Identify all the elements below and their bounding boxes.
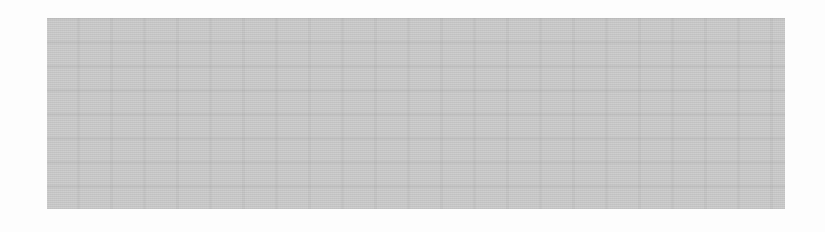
image-description: Scanned halftone gray rectangle on white… xyxy=(0,0,1,1)
page-canvas: Scanned halftone gray rectangle on white… xyxy=(0,0,825,232)
halftone-gray-block xyxy=(47,18,785,209)
